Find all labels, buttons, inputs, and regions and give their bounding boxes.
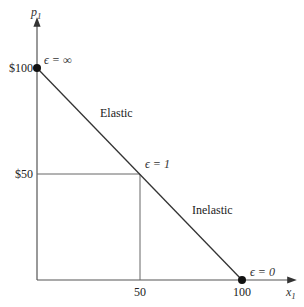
epsilon-infinity-label: ϵ = ∞ — [44, 53, 72, 67]
x-tick-100: 100 — [233, 285, 251, 299]
elastic-label: Elastic — [100, 106, 133, 120]
elasticity-diagram: p1 x1 $100 $50 50 100 Elastic Inelastic … — [0, 0, 304, 307]
inelastic-label: Inelastic — [192, 203, 233, 217]
y-tick-100: $100 — [9, 61, 33, 75]
epsilon-zero-label: ϵ = 0 — [250, 265, 275, 279]
x-axis-label: x1 — [285, 285, 296, 301]
y-axis-label: p1 — [30, 5, 42, 21]
y-tick-50: $50 — [15, 167, 33, 181]
point-top — [33, 64, 41, 72]
epsilon-one-label: ϵ = 1 — [145, 157, 170, 171]
x-tick-50: 50 — [134, 285, 146, 299]
point-bottom — [238, 276, 246, 284]
